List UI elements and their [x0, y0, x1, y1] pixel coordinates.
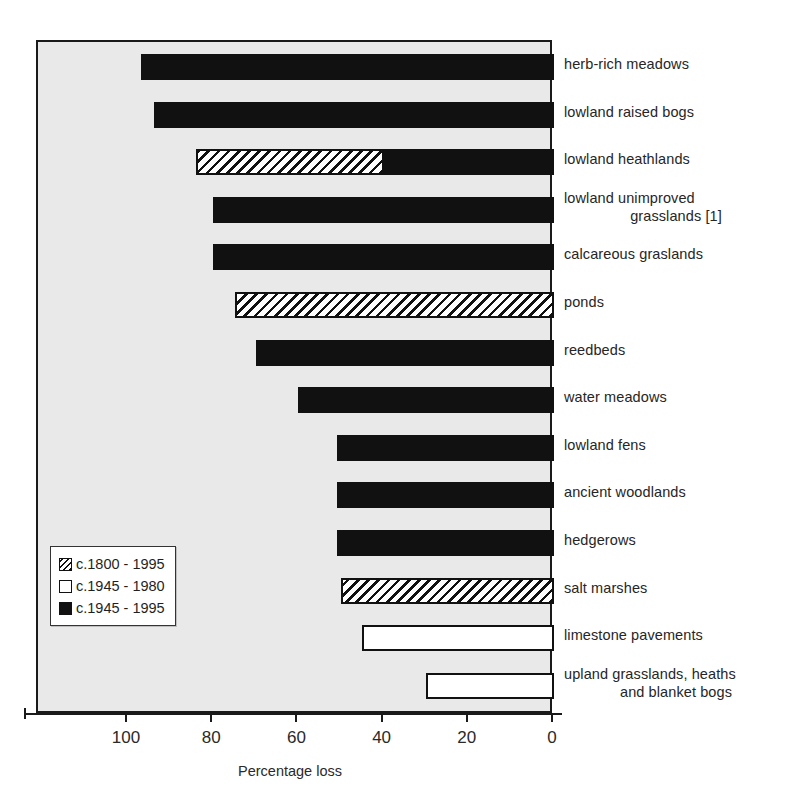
- x-tick-label: 60: [266, 728, 326, 748]
- bar-segment-hatch: [196, 149, 383, 175]
- bar-row: [38, 102, 554, 128]
- bar-row: [38, 435, 554, 461]
- category-label-line: lowland fens: [564, 437, 646, 453]
- category-label: herb-rich meadows: [564, 55, 788, 73]
- x-tick: [125, 713, 127, 722]
- bar-segment-solid: [213, 197, 554, 223]
- category-label: lowland heathlands: [564, 150, 788, 168]
- bar-segment-solid: [154, 102, 554, 128]
- bar-row: [38, 340, 554, 366]
- bar-segment-solid: [298, 387, 554, 413]
- category-label: salt marshes: [564, 579, 788, 597]
- bar-segment-open: [362, 625, 554, 651]
- legend-swatch-hatch-icon: [59, 558, 72, 571]
- bar-segment-solid: [337, 482, 554, 508]
- category-label-line: water meadows: [564, 389, 667, 405]
- category-label: lowland fens: [564, 436, 788, 454]
- bar-row: [38, 673, 554, 699]
- category-label-line: hedgerows: [564, 532, 636, 548]
- chart-figure: herb-rich meadowslowland raised bogslowl…: [0, 0, 788, 812]
- category-label: reedbeds: [564, 341, 788, 359]
- bar-segment-solid: [337, 435, 554, 461]
- category-label: lowland raised bogs: [564, 103, 788, 121]
- category-label-line: salt marshes: [564, 580, 647, 596]
- category-label: calcareous graslands: [564, 245, 788, 263]
- legend-item-hatch: c.1800 - 1995: [59, 553, 165, 575]
- category-label: limestone pavements: [564, 626, 788, 644]
- bar-row: [38, 625, 554, 651]
- bar-row: [38, 387, 554, 413]
- x-tick: [381, 713, 383, 722]
- bar-segment-hatch: [235, 292, 555, 318]
- x-tick: [466, 713, 468, 722]
- category-label: ancient woodlands: [564, 483, 788, 501]
- bar-segment-solid: [337, 530, 554, 556]
- bar-segment-solid: [213, 244, 554, 270]
- category-label: water meadows: [564, 388, 788, 406]
- category-label-line: and blanket bogs: [564, 683, 788, 701]
- bar-row: [38, 292, 554, 318]
- category-label-line: upland grasslands, heaths: [564, 666, 736, 682]
- bar-row: [38, 54, 554, 80]
- category-label-line: herb-rich meadows: [564, 56, 689, 72]
- x-tick-label: 100: [96, 728, 156, 748]
- legend-swatch-solid-icon: [59, 602, 72, 615]
- category-label: lowland unimprovedgrasslands [1]: [564, 189, 788, 225]
- bar-segment-solid: [141, 54, 554, 80]
- legend-label-open: c.1945 - 1980: [76, 578, 165, 594]
- x-tick: [295, 713, 297, 722]
- bar-segment-hatch: [341, 578, 554, 604]
- category-label-line: grasslands [1]: [564, 207, 788, 225]
- legend-item-open: c.1945 - 1980: [59, 575, 165, 597]
- legend-label-hatch: c.1800 - 1995: [76, 556, 165, 572]
- category-label-line: lowland raised bogs: [564, 104, 694, 120]
- x-tick: [210, 713, 212, 722]
- legend-label-solid: c.1945 - 1995: [76, 600, 165, 616]
- x-axis-line: [24, 713, 562, 715]
- bar-row: [38, 149, 554, 175]
- category-label-line: lowland unimproved: [564, 190, 695, 206]
- category-label: ponds: [564, 293, 788, 311]
- category-label-line: ancient woodlands: [564, 484, 686, 500]
- category-label-line: limestone pavements: [564, 627, 703, 643]
- x-tick-label: 20: [437, 728, 497, 748]
- bar-segment-open: [426, 673, 554, 699]
- x-tick-label: 40: [352, 728, 412, 748]
- x-axis-left-endcap: [24, 708, 26, 719]
- legend-item-solid: c.1945 - 1995: [59, 597, 165, 619]
- category-label-line: lowland heathlands: [564, 151, 690, 167]
- legend-swatch-open-icon: [59, 580, 72, 593]
- x-tick: [551, 713, 553, 722]
- chart-legend: c.1800 - 1995 c.1945 - 1980 c.1945 - 199…: [50, 546, 176, 626]
- bar-segment-solid: [384, 149, 554, 175]
- category-label-line: reedbeds: [564, 342, 625, 358]
- bar-row: [38, 197, 554, 223]
- category-label: hedgerows: [564, 531, 788, 549]
- bar-row: [38, 482, 554, 508]
- x-tick-label: 0: [522, 728, 582, 748]
- bar-segment-solid: [256, 340, 554, 366]
- category-label: upland grasslands, heathsand blanket bog…: [564, 665, 788, 701]
- x-tick-label: 80: [181, 728, 241, 748]
- category-label-line: calcareous graslands: [564, 246, 703, 262]
- bar-row: [38, 244, 554, 270]
- x-axis-title: Percentage loss: [0, 763, 580, 779]
- category-label-line: ponds: [564, 294, 604, 310]
